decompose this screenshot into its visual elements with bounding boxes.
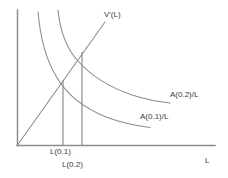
- label-average-product-high: A(0.2)/L: [170, 91, 198, 99]
- label-average-product-low: A(0.1)/L: [140, 113, 168, 121]
- average-product-high-curve: [58, 10, 170, 103]
- x-axis-label: L: [205, 157, 209, 165]
- label-marginal-value-curve: V'(L): [104, 11, 121, 19]
- x-tick-label-l02: L(0.2): [62, 161, 83, 169]
- diagram-canvas: [0, 0, 228, 178]
- x-tick-label-l01: L(0.1): [50, 148, 71, 156]
- economics-diagram: V'(L) A(0.2)/L A(0.1)/L L(0.1) L(0.2) L: [0, 0, 228, 178]
- average-product-low-curve: [38, 12, 150, 128]
